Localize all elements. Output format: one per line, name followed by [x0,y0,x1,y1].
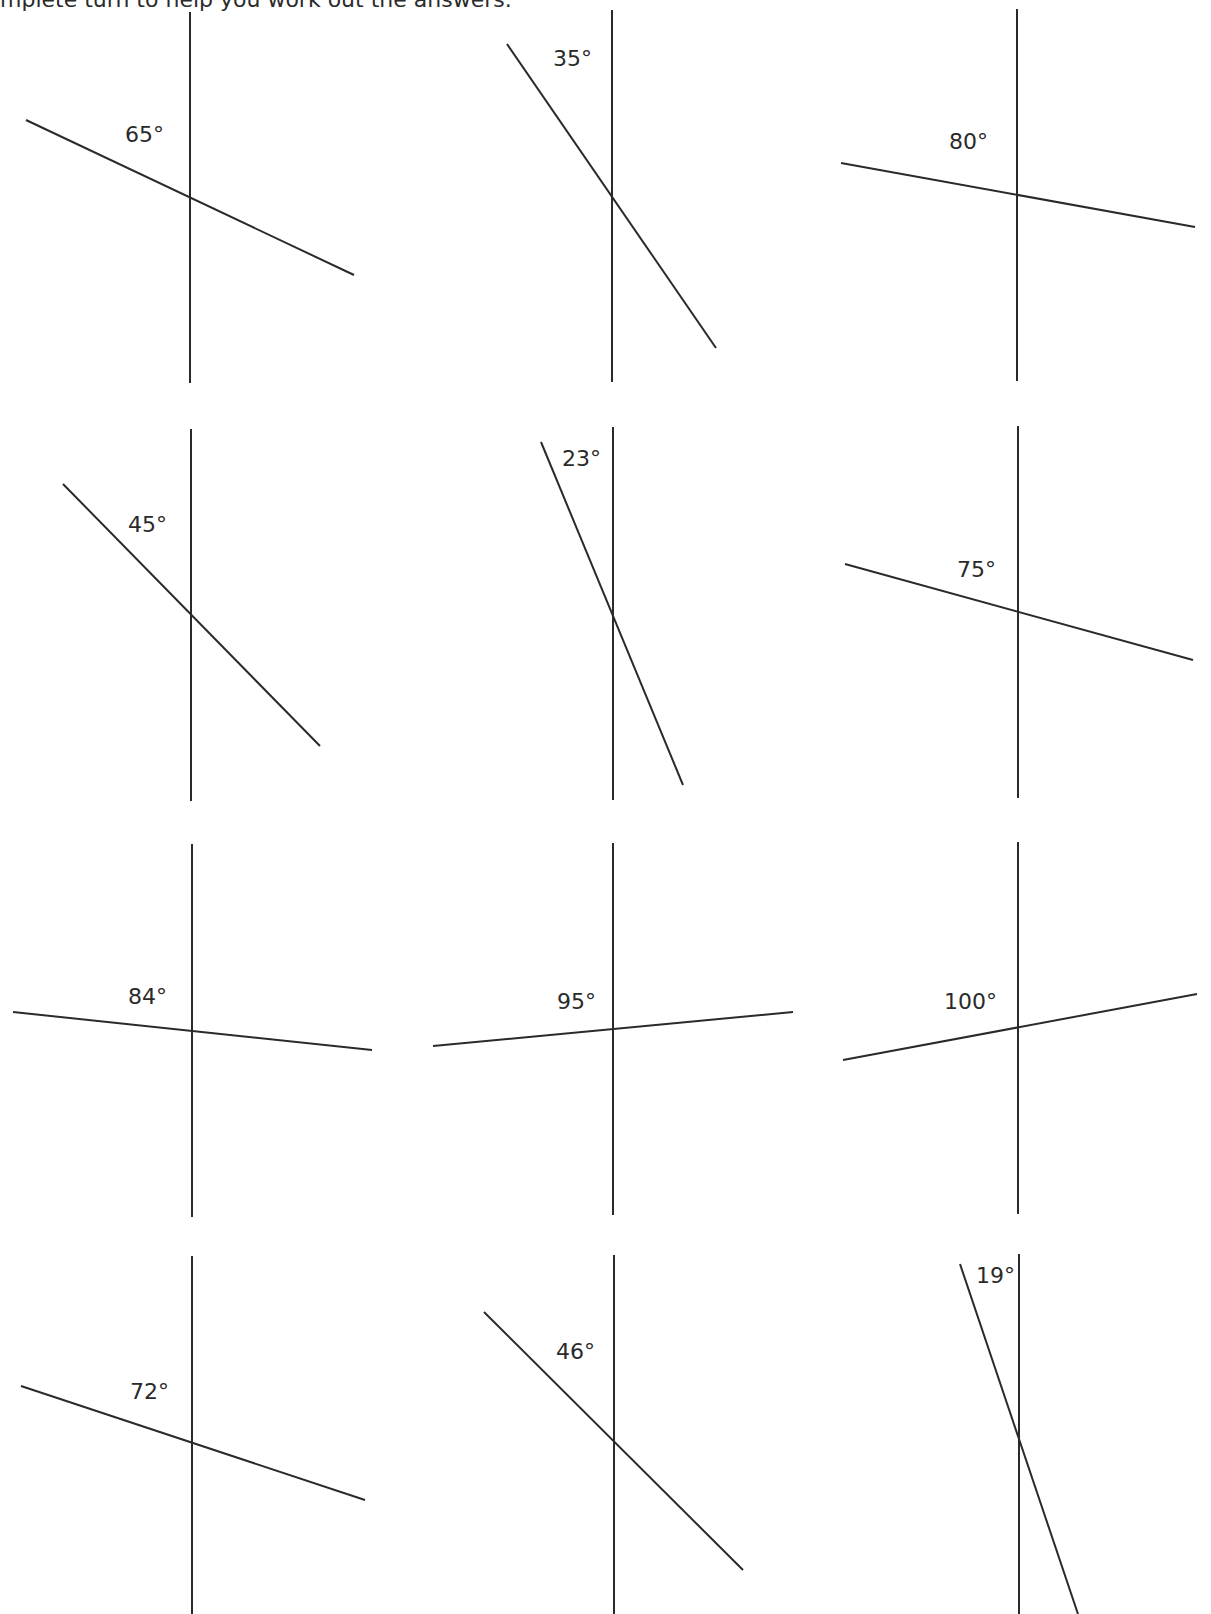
angle-label: 23° [562,446,601,471]
angle-label: 95° [557,989,596,1014]
figure-8: 95° [433,843,793,1215]
angle-label: 46° [556,1339,595,1364]
figure-7: 84° [13,844,372,1217]
angle-label: 65° [125,122,164,147]
figure-10: 72° [21,1256,365,1614]
figure-12: 19° [960,1254,1078,1614]
angle-label: 45° [128,512,167,537]
angle-figures-sheet: 65° 35° 80° 45° 23° 75° 84° 95° 100° [0,0,1211,1614]
angle-label: 100° [944,989,997,1014]
angle-label: 35° [553,46,592,71]
figure-3: 80° [841,9,1195,381]
angle-label: 19° [976,1263,1015,1288]
angle-label: 75° [957,557,996,582]
figure-2: 35° [507,10,716,382]
figure-4: 45° [63,429,320,801]
figure-6: 75° [845,426,1193,798]
angle-label: 72° [130,1379,169,1404]
figure-11: 46° [484,1255,743,1614]
angle-label: 80° [949,129,988,154]
figure-5: 23° [541,427,683,800]
angle-label: 84° [128,984,167,1009]
figure-1: 65° [26,12,354,383]
figure-9: 100° [843,842,1197,1214]
slanted-line [843,994,1197,1060]
